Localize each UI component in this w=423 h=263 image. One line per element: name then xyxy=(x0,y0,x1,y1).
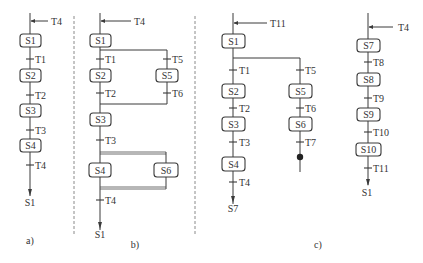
caption-a: a) xyxy=(26,235,34,247)
transition-label-t2: T2 xyxy=(239,103,250,114)
exit-arrow-icon xyxy=(366,179,370,186)
transition-label-t8: T8 xyxy=(373,57,384,68)
caption-b: b) xyxy=(131,239,139,251)
transition-label-t1: T1 xyxy=(239,65,250,76)
step-label-s5: S5 xyxy=(295,86,306,97)
entry-transition-label: T4 xyxy=(51,16,62,27)
step-label-s3: S3 xyxy=(25,105,36,116)
transition-label-t7: T7 xyxy=(305,137,316,148)
entry-transition-label: T4 xyxy=(398,22,409,33)
step-label-s8: S8 xyxy=(363,74,374,85)
step-label-s3: S3 xyxy=(95,114,106,125)
transition-label-t2: T2 xyxy=(35,90,46,101)
transition-label-t10: T10 xyxy=(373,127,389,138)
transition-label-t2: T2 xyxy=(105,88,116,99)
transition-label-t5: T5 xyxy=(305,65,316,76)
exit-step-label: S1 xyxy=(362,187,373,198)
step-label-s10: S10 xyxy=(361,144,377,155)
transition-label-t3: T3 xyxy=(239,137,250,148)
exit-arrow-icon xyxy=(28,189,32,196)
entry-transition-label: T4 xyxy=(134,16,145,27)
transition-label-t4: T4 xyxy=(239,177,250,188)
step-label-s7: S7 xyxy=(363,40,374,51)
transition-label-t4: T4 xyxy=(35,160,46,171)
transition-label-t6: T6 xyxy=(172,88,183,99)
diagram-c-main: T11 S1 T1 T5 S2 S5 T2 T6 S3 S6 T3 T7 S4 … xyxy=(222,13,316,214)
sfc-diagram-canvas: T4 S1 T1 S2 T2 S3 T3 S4 T4 S1 a) T4 S1 xyxy=(0,0,423,263)
transition-label-t11: T11 xyxy=(373,163,389,174)
exit-arrow-icon xyxy=(231,196,235,203)
transition-label-t6: T6 xyxy=(305,103,316,114)
exit-arrow-icon xyxy=(98,222,102,229)
transition-label-t9: T9 xyxy=(373,93,384,104)
step-label-s6: S6 xyxy=(295,119,306,130)
step-label-s5: S5 xyxy=(162,70,173,81)
step-label-s1: S1 xyxy=(95,35,106,46)
transition-label-t1: T1 xyxy=(35,54,46,65)
exit-step-label: S1 xyxy=(95,229,106,240)
diagram-c-sub: T4 S7 T8 S8 T9 S9 T10 S10 T11 S1 xyxy=(356,13,409,198)
diagram-a: T4 S1 T1 S2 T2 S3 T3 S4 T4 S1 xyxy=(20,13,62,208)
entry-transition-label: T11 xyxy=(270,18,286,29)
step-label-s1: S1 xyxy=(25,35,36,46)
diagram-b: T4 S1 T1 T5 S2 S5 T2 T6 S3 T3 S4 S6 xyxy=(89,13,183,240)
step-label-s4: S4 xyxy=(25,140,36,151)
branch-end-dot-icon xyxy=(297,154,303,160)
transition-label-t4: T4 xyxy=(105,195,116,206)
step-label-s9: S9 xyxy=(363,109,374,120)
entry-arrow-icon xyxy=(31,19,36,23)
transition-label-t5: T5 xyxy=(172,54,183,65)
step-label-s1: S1 xyxy=(228,36,239,47)
step-label-s3: S3 xyxy=(228,119,239,130)
step-label-s6: S6 xyxy=(161,165,172,176)
step-label-s4: S4 xyxy=(95,165,106,176)
entry-arrow-icon xyxy=(101,19,106,23)
transition-label-t1: T1 xyxy=(105,54,116,65)
entry-arrow-icon xyxy=(234,21,239,25)
transition-label-t3: T3 xyxy=(35,125,46,136)
caption-c: c) xyxy=(314,239,322,251)
transition-label-t3: T3 xyxy=(105,135,116,146)
exit-step-label: S7 xyxy=(228,203,239,214)
exit-step-label: S1 xyxy=(25,197,36,208)
step-label-s2: S2 xyxy=(95,70,106,81)
entry-arrow-icon xyxy=(369,25,374,29)
step-label-s2: S2 xyxy=(228,86,239,97)
step-label-s2: S2 xyxy=(25,70,36,81)
step-label-s4: S4 xyxy=(228,159,239,170)
